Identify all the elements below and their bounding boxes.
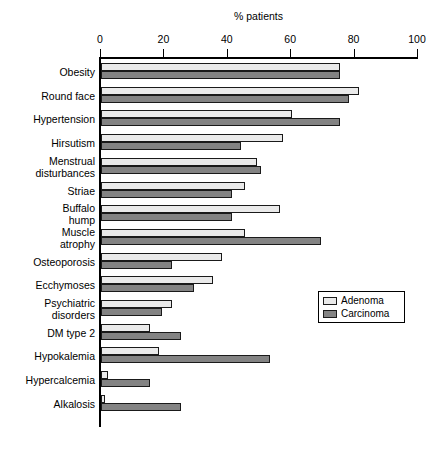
- bar-adenoma: [101, 134, 283, 142]
- category-label: Hirsutism: [0, 138, 95, 150]
- x-axis-tick-label: 80: [334, 33, 374, 45]
- chart-axis-title: % patients: [100, 10, 417, 22]
- category-label: Psychiatric disorders: [0, 298, 95, 321]
- category-label: Osteoporosis: [0, 257, 95, 269]
- x-axis-tick: [290, 49, 291, 57]
- bar-adenoma: [101, 395, 105, 403]
- bar-carcinoma: [101, 379, 150, 387]
- bar-carcinoma: [101, 213, 232, 221]
- category-label: Alkalosis: [0, 399, 95, 411]
- bar-carcinoma: [101, 95, 349, 103]
- x-axis-tick: [417, 49, 418, 57]
- bar-carcinoma: [101, 166, 261, 174]
- bar-adenoma: [101, 300, 172, 308]
- category-label: Obesity: [0, 67, 95, 79]
- bar-carcinoma: [101, 403, 181, 411]
- bar-adenoma: [101, 371, 108, 379]
- legend-item-adenoma: Adenoma: [323, 295, 400, 307]
- bar-adenoma: [101, 158, 257, 166]
- category-label: Ecchymoses: [0, 280, 95, 292]
- category-label: Hypercalcemia: [0, 375, 95, 387]
- x-axis-tick-label: 60: [270, 33, 310, 45]
- bar-adenoma: [101, 63, 340, 71]
- bar-carcinoma: [101, 71, 340, 79]
- bar-adenoma: [101, 253, 222, 261]
- category-label: Round face: [0, 91, 95, 103]
- bar-adenoma: [101, 229, 245, 237]
- legend-label-adenoma: Adenoma: [341, 296, 384, 306]
- category-label: Buffalo hump: [0, 203, 95, 226]
- x-axis-tick-label: 0: [80, 33, 120, 45]
- bar-carcinoma: [101, 355, 270, 363]
- bar-carcinoma: [101, 142, 241, 150]
- legend-item-carcinoma: Carcinoma: [323, 308, 400, 320]
- x-axis-tick: [163, 49, 164, 57]
- bar-adenoma: [101, 324, 150, 332]
- category-label: Hypokalemia: [0, 351, 95, 363]
- x-axis-tick: [100, 49, 101, 57]
- bar-carcinoma: [101, 308, 162, 316]
- x-axis-tick-label: 100: [397, 33, 437, 45]
- x-axis-tick: [227, 49, 228, 57]
- bar-carcinoma: [101, 118, 340, 126]
- category-label: Hypertension: [0, 114, 95, 126]
- bar-adenoma: [101, 87, 359, 95]
- category-label: Striae: [0, 186, 95, 198]
- x-axis-line: [100, 57, 418, 59]
- chart-legend: Adenoma Carcinoma: [318, 291, 405, 323]
- x-axis-tick-label: 20: [143, 33, 183, 45]
- legend-swatch-carcinoma-icon: [323, 310, 337, 318]
- bar-carcinoma: [101, 284, 194, 292]
- bar-adenoma: [101, 276, 213, 284]
- bar-carcinoma: [101, 261, 172, 269]
- legend-label-carcinoma: Carcinoma: [341, 309, 389, 319]
- bar-carcinoma: [101, 332, 181, 340]
- bar-carcinoma: [101, 237, 321, 245]
- category-label: DM type 2: [0, 328, 95, 340]
- category-label: Menstrual disturbances: [0, 156, 95, 179]
- category-label: Muscle atrophy: [0, 227, 95, 250]
- bar-chart: % patients 020406080100 ObesityRound fac…: [0, 0, 443, 472]
- x-axis-tick: [354, 49, 355, 57]
- bar-carcinoma: [101, 190, 232, 198]
- bar-adenoma: [101, 347, 159, 355]
- x-axis-tick-label: 40: [207, 33, 247, 45]
- legend-swatch-adenoma-icon: [323, 297, 337, 305]
- bar-adenoma: [101, 205, 280, 213]
- bar-adenoma: [101, 182, 245, 190]
- bar-adenoma: [101, 110, 292, 118]
